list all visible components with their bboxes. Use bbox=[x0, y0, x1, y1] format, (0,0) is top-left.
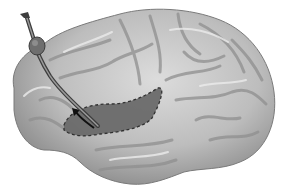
illustration bbox=[0, 0, 281, 189]
brain-illustration bbox=[0, 0, 281, 189]
probe-bulb bbox=[29, 37, 45, 55]
